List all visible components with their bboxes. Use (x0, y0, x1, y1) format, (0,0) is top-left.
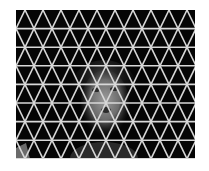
lattice-line (0, 10, 16, 171)
image-canvas: Grayscale photo of a person's face behin… (0, 0, 209, 171)
lattice-line (205, 10, 209, 171)
lattice-line (0, 10, 7, 171)
lattice-face-image (0, 0, 209, 171)
lattice-line (196, 10, 209, 171)
